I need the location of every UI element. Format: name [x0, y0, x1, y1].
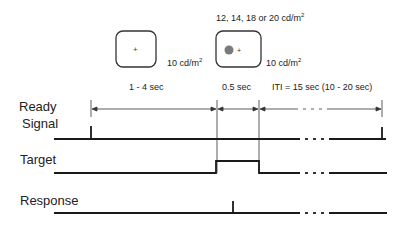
target-label: Target [20, 152, 56, 167]
fixation-cross-icon: + [133, 45, 138, 54]
target-trace [54, 161, 387, 173]
target-interval-label: 0.5 sec [222, 82, 251, 92]
target-background-luminance-label: 10 cd/m2 [266, 57, 301, 68]
ready-label-line2: Signal [22, 116, 58, 131]
target-dot-icon [225, 46, 234, 55]
fixation-luminance-label: 10 cd/m2 [167, 57, 202, 68]
target-cross-icon: + [237, 47, 241, 54]
iti-label: ITI = 15 sec (10 - 20 sec) [272, 82, 372, 92]
pre-interval-label: 1 - 4 sec [129, 82, 164, 92]
response-label: Response [20, 193, 79, 208]
target-luminance-options-label: 12, 14, 18 or 20 cd/m2 [216, 12, 304, 23]
interval-arrows [92, 107, 381, 111]
response-trace [54, 201, 387, 213]
ready-signal-trace [54, 126, 386, 139]
ready-label-line1: Ready [19, 99, 57, 114]
